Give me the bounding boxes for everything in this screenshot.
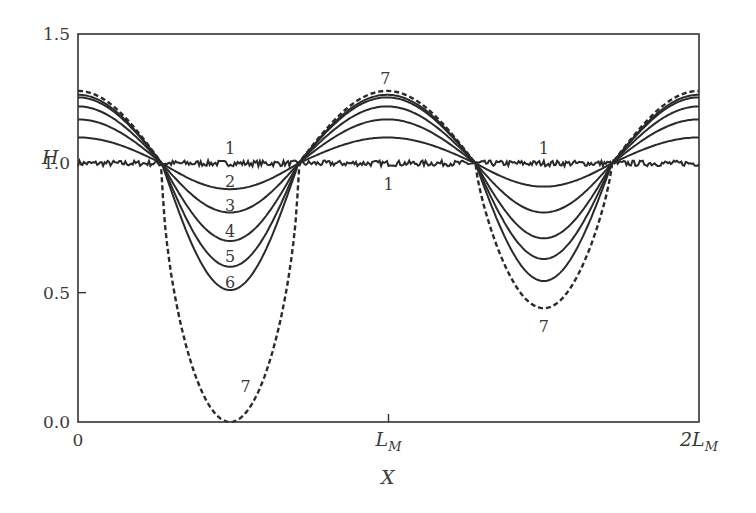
curve-label: 4 xyxy=(225,222,235,241)
curve-label: 1 xyxy=(383,175,393,194)
curve-label: 1 xyxy=(225,139,235,158)
x-tick-label: 2LM xyxy=(679,428,719,454)
y-tick-label: 1.5 xyxy=(43,24,70,44)
y-tick-label: 0.0 xyxy=(43,412,70,432)
curve-label: 7 xyxy=(241,377,251,396)
chart: 0.00.51.01.50LM2LM 11123456777 H X xyxy=(0,0,756,513)
y-tick-label: 0.5 xyxy=(43,283,70,303)
curve-label: 7 xyxy=(539,317,549,336)
x-tick-label: 0 xyxy=(73,430,84,450)
plot-frame xyxy=(78,34,699,422)
curves-layer xyxy=(78,91,699,422)
x-axis-label: X xyxy=(379,466,396,488)
curve-label: 5 xyxy=(225,247,235,266)
curve-7 xyxy=(78,91,699,422)
y-axis-label: H xyxy=(41,146,59,168)
curve-label: 6 xyxy=(225,273,235,292)
curve-label: 1 xyxy=(539,139,549,158)
tick-labels: 0.00.51.01.50LM2LM xyxy=(43,24,719,454)
curve-1 xyxy=(78,161,699,167)
curve-label: 3 xyxy=(225,196,235,215)
curve-label: 2 xyxy=(225,172,235,191)
curve-label: 7 xyxy=(380,69,390,88)
x-tick-label: LM xyxy=(375,428,403,454)
